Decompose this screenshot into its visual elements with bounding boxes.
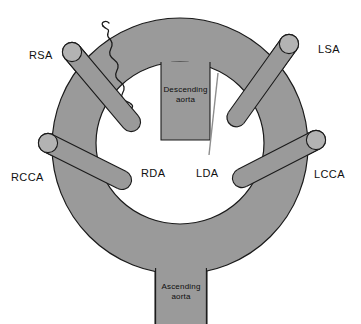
ascending-aorta-label-line2-top: aorta xyxy=(171,292,191,301)
vessel-lsa-proximal-cap-icon xyxy=(279,34,298,53)
vessel-rcca-proximal-cap-icon xyxy=(38,133,57,152)
descending-aorta-label-line2: aorta xyxy=(176,95,196,104)
ascending-aorta-label-line1-top: Ascending xyxy=(161,282,200,291)
descending-aorta-label-line1: Descending xyxy=(163,85,207,94)
double-aortic-arch-diagram: Ascending aorta Ascending aorta xyxy=(0,0,361,324)
label-lda: LDA xyxy=(196,167,219,179)
descending-aorta: Descending aorta xyxy=(161,62,210,140)
label-rsa: RSA xyxy=(29,49,53,61)
label-rcca: RCCA xyxy=(11,171,44,183)
label-lsa: LSA xyxy=(318,43,340,55)
vessel-rsa-proximal-cap-icon xyxy=(62,42,81,61)
ascending-aorta-neck: Ascending aorta xyxy=(156,262,207,324)
vessel-lcca-proximal-cap-icon xyxy=(306,130,325,149)
label-lcca: LCCA xyxy=(314,168,345,180)
diagram-canvas: Ascending aorta Ascending aorta xyxy=(0,0,361,324)
label-rda: RDA xyxy=(141,167,166,179)
